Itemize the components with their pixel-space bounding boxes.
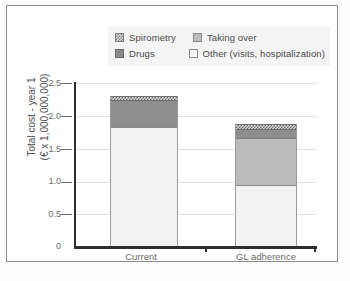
white-swatch-icon [189,49,198,58]
legend-item-spirometry: Spirometry [115,32,193,43]
bar-segment-taking-over [236,138,296,185]
bar-segment-other [111,127,177,247]
figure-container: Spirometry Taking over Drugs Other (visi… [0,0,350,281]
x-axis-line [74,246,317,249]
y-tick-mark-2-5 [61,83,72,84]
bar-gl-adherence[interactable] [235,124,297,247]
legend-label-drugs: Drugs [129,48,155,59]
y-tick-label-0-5: 0.5 [37,210,61,219]
x-axis-label-current: Current [86,251,196,262]
y-tick-mark-0-5 [61,214,72,215]
light-gray-swatch-icon [193,33,202,42]
y-tick-label-0: 0 [37,242,61,251]
y-tick-label-1-5: 1.5 [37,145,61,154]
chart-frame: Spirometry Taking over Drugs Other (visi… [6,5,338,262]
gridline-2-5 [75,83,317,84]
legend-row-2: Drugs Other (visits, hospitalization) [115,45,325,61]
bar-segment-drugs [236,129,296,138]
legend-label-taking-over: Taking over [207,32,257,43]
legend-item-taking-over: Taking over [193,32,257,43]
y-tick-label-1-0: 1.0 [37,177,61,186]
legend-item-other: Other (visits, hospitalization) [189,48,325,59]
legend-item-drugs: Drugs [115,48,189,59]
y-tick-mark-1-5 [61,149,72,150]
legend-label-other: Other (visits, hospitalization) [203,48,325,59]
bar-segment-other [236,185,296,247]
y-axis-line [74,82,76,248]
bar-current[interactable] [110,96,178,247]
plot-area [75,83,317,247]
y-axis-tick-labels: 2.5 2.0 1.5 1.0 0.5 0 [33,6,61,281]
x-axis-label-gl-adherence: GL adherence [211,251,321,262]
checkered-pattern-swatch-icon [115,33,124,42]
legend-label-spirometry: Spirometry [129,32,176,43]
y-tick-mark-1-0 [61,182,72,183]
dark-gray-swatch-icon [115,49,124,58]
y-tick-mark-2-0 [61,116,72,117]
chart-legend: Spirometry Taking over Drugs Other (visi… [108,26,330,66]
y-tick-label-2-0: 2.0 [37,112,61,121]
legend-row-1: Spirometry Taking over [115,29,325,45]
x-tick-mark-center [205,247,207,252]
y-tick-label-2-5: 2.5 [37,79,61,88]
bar-segment-drugs [111,100,177,127]
